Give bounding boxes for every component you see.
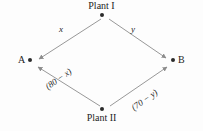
- node-plant-1: Plant I: [0, 1, 203, 17]
- node-a: A: [18, 55, 32, 65]
- node-a-dot: [28, 58, 32, 62]
- edge-label-x: x: [59, 25, 63, 34]
- node-plant-2-label: Plant II: [87, 113, 117, 123]
- node-plant-2-dot: [100, 107, 104, 111]
- edge-plant1-to-b: [109, 19, 166, 58]
- edge-plant1-to-a: [39, 19, 101, 59]
- node-plant-1-dot: [100, 13, 104, 17]
- node-b: B: [171, 55, 185, 65]
- node-b-dot: [171, 58, 175, 62]
- node-plant-1-label: Plant I: [88, 1, 114, 11]
- node-b-label: B: [178, 55, 185, 65]
- node-a-label: A: [18, 55, 25, 65]
- node-plant-2: Plant II: [0, 107, 203, 123]
- edge-label-y: y: [131, 25, 135, 34]
- transportation-network-diagram: Plant I A B Plant II x y (80 − x) (70 − …: [0, 0, 203, 131]
